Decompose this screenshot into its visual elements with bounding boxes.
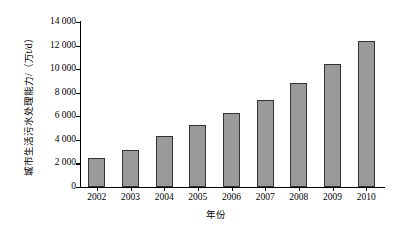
bar-2002	[88, 158, 105, 187]
x-axis-tick-mark	[232, 187, 233, 191]
x-axis-tick-mark	[131, 187, 132, 191]
y-axis-tick-label: 8 000	[55, 88, 76, 98]
x-axis-tick-label-2007: 2007	[256, 193, 275, 203]
x-axis-tick-label-2006: 2006	[222, 193, 241, 203]
bar-2005	[189, 125, 206, 187]
y-axis-tick-mark	[76, 22, 80, 23]
x-axis-tick-label-2010: 2010	[357, 193, 376, 203]
x-axis-tick-label-2003: 2003	[121, 193, 140, 203]
y-axis-tick-mark	[76, 187, 80, 188]
bar-2006	[223, 113, 240, 187]
bar-2007	[257, 100, 274, 187]
plot-area: 02 0004 0006 0008 00010 00012 00014 000	[80, 22, 383, 187]
y-axis-tick-label: 12 000	[50, 41, 76, 51]
x-axis-tick-label-2005: 2005	[188, 193, 207, 203]
y-axis-tick-label: 2 000	[55, 159, 76, 169]
bar-2003	[122, 150, 139, 187]
x-axis-tick-label-2004: 2004	[155, 193, 174, 203]
bar-chart-figure: 城市生活污水处理能力/（万t/d） 02 0004 0006 0008 0001…	[0, 0, 401, 243]
y-axis-title: 城市生活污水处理能力/（万t/d）	[21, 14, 37, 196]
x-axis-tick-mark	[299, 187, 300, 191]
bar-2009	[324, 64, 341, 187]
x-axis-tick-label-2008: 2008	[289, 193, 308, 203]
x-axis-tick-mark	[97, 187, 98, 191]
x-axis-tick-mark	[333, 187, 334, 191]
x-axis-title: 年份	[0, 211, 401, 221]
x-axis-tick-label-2009: 2009	[323, 193, 342, 203]
x-axis-tick-label-2002: 2002	[87, 193, 106, 203]
y-axis-title-text: 城市生活污水处理能力/（万t/d）	[24, 34, 34, 177]
y-axis-tick-mark	[76, 116, 80, 117]
x-axis-tick-mark	[265, 187, 266, 191]
y-axis-tick-label: 6 000	[55, 112, 76, 122]
bar-2004	[156, 136, 173, 187]
x-axis-tick-mark	[198, 187, 199, 191]
y-axis-tick-mark	[76, 69, 80, 70]
x-axis-tick-mark	[366, 187, 367, 191]
y-axis-tick-mark	[76, 163, 80, 164]
bar-2010	[358, 41, 375, 187]
y-axis-tick-mark	[76, 140, 80, 141]
y-axis-tick-label: 0	[71, 182, 76, 192]
y-axis-tick-mark	[76, 93, 80, 94]
y-axis-tick-mark	[76, 46, 80, 47]
bar-2008	[290, 83, 307, 187]
y-axis-tick-label: 14 000	[50, 17, 76, 27]
y-axis-tick-label: 4 000	[55, 135, 76, 145]
x-axis-tick-mark	[164, 187, 165, 191]
y-axis-tick-label: 10 000	[50, 64, 76, 74]
